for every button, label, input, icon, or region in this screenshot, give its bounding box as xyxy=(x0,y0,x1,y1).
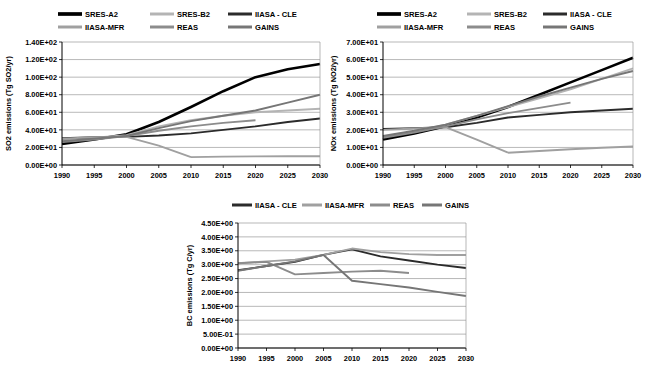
bc-ytick-label: 4.00E+00 xyxy=(201,233,233,242)
bc-xtick-label: 1990 xyxy=(230,354,246,363)
bc-xtick-label: 2030 xyxy=(458,354,474,363)
series-line-iiasa-mfr xyxy=(191,156,320,157)
so2-xtick-label: 2010 xyxy=(183,171,199,180)
so2-plot: SRES-A2SRES-B2IIASA - CLEIIASA-MFRREASGA… xyxy=(0,0,330,195)
bc-ytick-label: 5.00E-01 xyxy=(203,330,233,339)
so2-y-axis-title: SO2 emissions (Tg SO2/yr) xyxy=(4,56,13,151)
bc-plot: IIASA - CLEIIASA-MFRREASGAINS0.00E+005.0… xyxy=(180,193,480,378)
bc-emissions-chart: IIASA - CLEIIASA-MFRREASGAINS0.00E+005.0… xyxy=(180,193,480,378)
nox-emissions-chart: SRES-A2SRES-B2IIASA - CLEIIASA-MFRREASGA… xyxy=(325,0,645,195)
bc-ytick-label: 3.00E+00 xyxy=(201,260,233,269)
so2-xtick-label: 2015 xyxy=(215,171,231,180)
nox-ytick-label: 7.00E+01 xyxy=(346,38,378,47)
bc-ytick-label: 2.00E+00 xyxy=(201,288,233,297)
so2-ytick-label: 6.00E+01 xyxy=(25,108,57,117)
series-line-iiasa-cle xyxy=(383,109,633,129)
legend-label-gains: GAINS xyxy=(255,23,279,32)
nox-xtick-label: 2020 xyxy=(562,171,578,180)
legend-label-gains: GAINS xyxy=(570,23,594,32)
nox-ytick-label: 4.00E+01 xyxy=(346,90,378,99)
bc-axis-lines xyxy=(238,223,466,348)
nox-legend: SRES-A2SRES-B2IIASA - CLEIIASA-MFRREASGA… xyxy=(377,10,612,32)
bc-xtick-label: 2005 xyxy=(315,354,331,363)
so2-ytick-label: 1.20E+02 xyxy=(25,55,57,64)
legend-label-iiasa-mfr: IIASA-MFR xyxy=(85,23,125,32)
bc-series-group xyxy=(238,249,466,297)
nox-ytick-label: 0.00E+00 xyxy=(346,161,378,170)
legend-label-iiasa-cle: IIASA - CLE xyxy=(255,201,297,210)
legend-label-sres-b2: SRES-B2 xyxy=(177,10,210,19)
series-line-iiasa-mfr xyxy=(383,127,508,152)
nox-xaxis: 199019952000200520102015202020252030 xyxy=(375,165,641,180)
nox-ytick-label: 2.00E+01 xyxy=(346,126,378,135)
nox-gridlines: 0.00E+001.00E+012.00E+013.00E+014.00E+01… xyxy=(346,38,633,170)
so2-ytick-label: 2.00E+01 xyxy=(25,143,57,152)
nox-xtick-label: 2025 xyxy=(594,171,610,180)
legend-label-sres-a2: SRES-A2 xyxy=(85,10,118,19)
nox-ytick-label: 3.00E+01 xyxy=(346,108,378,117)
so2-xtick-label: 2000 xyxy=(118,171,134,180)
bc-ytick-label: 1.50E+00 xyxy=(201,302,233,311)
legend-label-sres-b2: SRES-B2 xyxy=(494,10,527,19)
nox-xtick-label: 2000 xyxy=(437,171,453,180)
legend-label-sres-a2: SRES-A2 xyxy=(404,10,437,19)
legend-label-reas: REAS xyxy=(393,201,414,210)
bc-xtick-label: 2010 xyxy=(344,354,360,363)
so2-ytick-label: 0.00E+00 xyxy=(25,161,57,170)
legend-label-iiasa-mfr: IIASA-MFR xyxy=(325,201,365,210)
so2-ytick-label: 8.00E+01 xyxy=(25,90,57,99)
nox-series-group xyxy=(383,58,633,153)
bc-xtick-label: 2015 xyxy=(372,354,388,363)
series-line-sres-b2 xyxy=(62,109,320,140)
nox-ytick-label: 6.00E+01 xyxy=(346,55,378,64)
so2-xtick-label: 1990 xyxy=(54,171,70,180)
bc-xaxis: 199019952000200520102015202020252030 xyxy=(230,348,474,363)
bc-ytick-label: 1.00E+00 xyxy=(201,316,233,325)
bc-ytick-label: 2.50E+00 xyxy=(201,274,233,283)
nox-y-axis-title: NOx emissions (Tg NO2/yr) xyxy=(329,55,338,151)
bc-xtick-label: 1995 xyxy=(258,354,274,363)
nox-axis-lines xyxy=(383,42,633,165)
so2-legend: SRES-A2SRES-B2IIASA - CLEIIASA-MFRREASGA… xyxy=(58,10,297,32)
nox-xtick-label: 1995 xyxy=(406,171,422,180)
nox-xtick-label: 2015 xyxy=(531,171,547,180)
so2-xtick-label: 2025 xyxy=(280,171,296,180)
bc-y-axis-title: BC emissions (Tg C/yr) xyxy=(185,244,194,326)
legend-label-iiasa-cle: IIASA - CLE xyxy=(255,10,297,19)
legend-label-iiasa-cle: IIASA - CLE xyxy=(570,10,612,19)
nox-ytick-label: 5.00E+01 xyxy=(346,73,378,82)
nox-xtick-label: 2030 xyxy=(625,171,641,180)
so2-xtick-label: 2020 xyxy=(247,171,263,180)
series-line-iiasa-cle xyxy=(238,249,466,270)
so2-xtick-label: 2005 xyxy=(151,171,167,180)
legend-label-reas: REAS xyxy=(494,23,515,32)
series-line-sres-b2 xyxy=(383,68,633,137)
bc-gridlines: 0.00E+005.00E-011.00E+001.50E+002.00E+00… xyxy=(201,219,466,353)
series-line-reas xyxy=(383,103,571,138)
nox-plot: SRES-A2SRES-B2IIASA - CLEIIASA-MFRREASGA… xyxy=(325,0,645,195)
series-line-reas xyxy=(238,262,409,275)
bc-ytick-label: 4.50E+00 xyxy=(201,219,233,228)
series-line-gains xyxy=(383,71,633,136)
bc-xtick-label: 2020 xyxy=(401,354,417,363)
legend-label-gains: GAINS xyxy=(445,201,469,210)
nox-xtick-label: 2005 xyxy=(469,171,485,180)
bc-ytick-label: 3.50E+00 xyxy=(201,246,233,255)
so2-ytick-label: 4.00E+01 xyxy=(25,126,57,135)
so2-emissions-chart: SRES-A2SRES-B2IIASA - CLEIIASA-MFRREASGA… xyxy=(0,0,330,195)
bc-legend: IIASA - CLEIIASA-MFRREASGAINS xyxy=(232,201,469,210)
so2-series-group xyxy=(62,64,320,157)
legend-label-reas: REAS xyxy=(177,23,198,32)
so2-ytick-label: 1.00E+02 xyxy=(25,73,57,82)
bc-ytick-label: 0.00E+00 xyxy=(201,344,233,353)
nox-xtick-label: 2010 xyxy=(500,171,516,180)
so2-xaxis: 199019952000200520102015202020252030 xyxy=(54,165,328,180)
nox-xtick-label: 1990 xyxy=(375,171,391,180)
so2-xtick-label: 1995 xyxy=(86,171,102,180)
legend-label-iiasa-mfr: IIASA-MFR xyxy=(404,23,444,32)
bc-xtick-label: 2025 xyxy=(429,354,445,363)
nox-ytick-label: 1.00E+01 xyxy=(346,143,378,152)
so2-ytick-label: 1.40E+02 xyxy=(25,38,57,47)
bc-xtick-label: 2000 xyxy=(287,354,303,363)
